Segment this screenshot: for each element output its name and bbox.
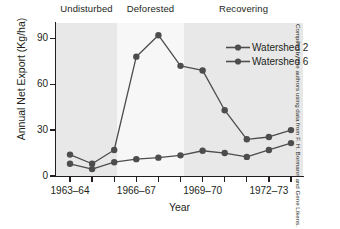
x-tick [224,177,225,182]
y-tick [50,129,55,130]
band-label-deforested: Deforested [117,3,184,14]
series-watershed-6 [67,140,294,172]
legend-swatch-watershed-2 [226,42,250,53]
data-point [111,147,117,153]
y-tick-label: 60 [37,78,48,89]
x-tick [180,177,181,182]
x-axis-title: Year [56,201,303,213]
x-tick [158,177,159,182]
x-tick [69,177,70,182]
legend-swatch-watershed-6 [226,56,250,67]
x-tick [91,177,92,182]
data-point [177,63,183,69]
x-tick [202,177,203,182]
y-axis-line [55,22,56,177]
data-point [199,148,205,154]
y-tick-label: 30 [37,124,48,135]
data-point [199,67,205,73]
data-point [111,159,117,165]
data-point [244,136,250,142]
data-point [244,154,250,160]
data-point [133,156,139,162]
y-tick [50,38,55,39]
chart-figure: Undisturbed Deforested Recovering Annual… [0,0,340,229]
band-label-undisturbed: Undisturbed [56,3,117,14]
x-tick-label: 1969–70 [173,185,233,196]
x-tick [114,177,115,182]
data-point [67,151,73,157]
y-tick [50,84,55,85]
credit-text: Compiled by the authors using data from … [270,0,304,229]
data-point [155,154,161,160]
data-point [222,107,228,113]
data-point [133,53,139,59]
data-point [222,150,228,156]
data-point [177,152,183,158]
data-point [89,166,95,172]
y-tick-label: 0 [42,170,48,181]
x-tick-label: 1966–67 [106,185,166,196]
y-tick-label: 90 [37,32,48,43]
x-tick [246,177,247,182]
x-tick-label: 1963–64 [40,185,100,196]
x-tick [136,177,137,182]
data-point [67,161,73,167]
y-axis-title: Annual Net Export (Kg/ha) [15,0,27,164]
y-tick [50,175,55,176]
data-point [155,32,161,38]
